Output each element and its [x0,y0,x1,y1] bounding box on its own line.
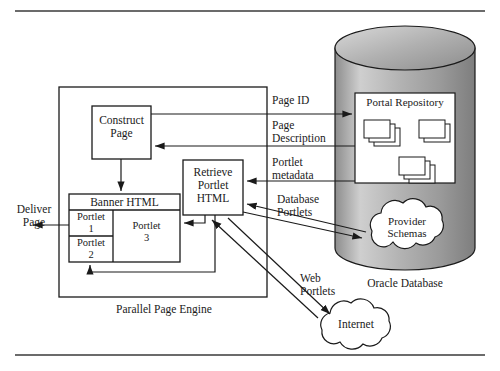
diagram-vector-layer [0,0,500,371]
portlet-1-label: Portlet 1 [69,211,113,235]
doc-stack-bottom [399,157,435,183]
connector-retrieve-to-portlet3 [184,215,205,223]
page-id-label: Page ID [272,94,309,107]
web-portlets-label: Web Portlets [300,272,335,298]
page-description-label: Page Description [272,119,326,145]
doc-stack-right [419,120,450,142]
internet-label: Internet [322,318,390,331]
retrieve-portlet-html-label: Retrieve Portlet HTML [183,166,243,205]
portlet-metadata-label: Portlet metadata [272,156,314,182]
banner-html-label: Banner HTML [69,196,180,209]
diagram-canvas: Construct Page Retrieve Portlet HTML Ban… [0,0,500,371]
doc-stack-left [364,120,400,146]
construct-page-label: Construct Page [92,114,151,140]
portlet-3-label: Portlet 3 [113,220,180,244]
provider-schemas-label: Provider Schemas [371,215,443,240]
oracle-database-caption: Oracle Database [345,277,465,290]
deliver-page-label: Deliver Page [8,203,60,229]
parallel-page-engine-caption: Parallel Page Engine [98,303,230,316]
database-portlets-label: Database Portlets [277,193,319,219]
portlet-2-label: Portlet 2 [69,237,113,261]
portal-repository-label: Portal Repository [355,96,455,108]
